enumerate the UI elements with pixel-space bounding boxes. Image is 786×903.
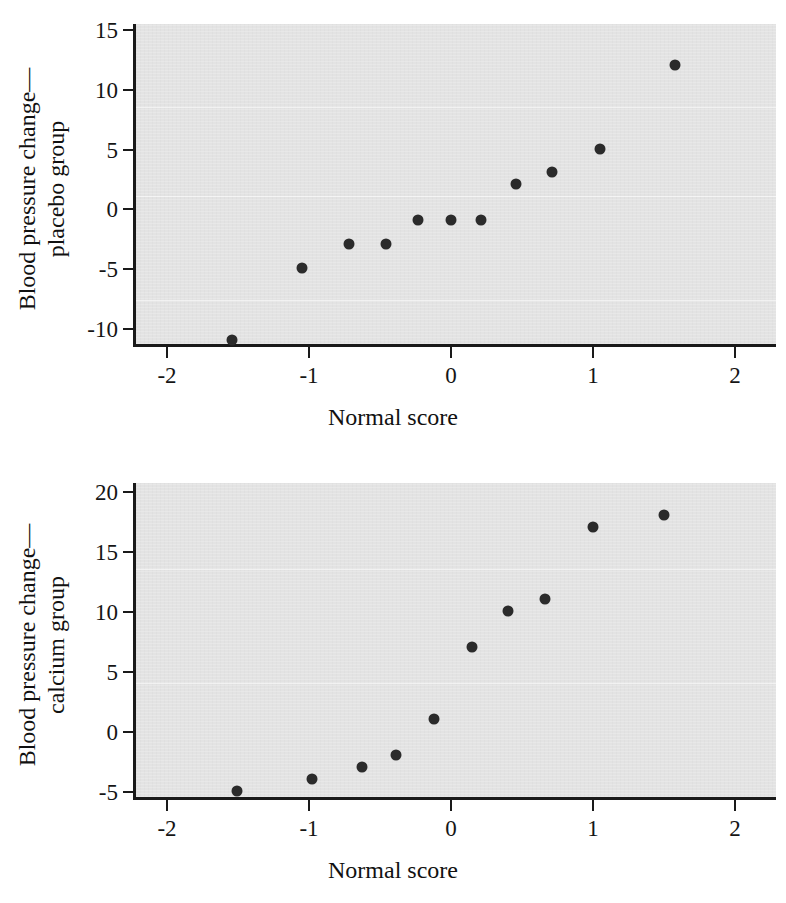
x-tick (450, 800, 452, 811)
plot-panel-calcium (136, 483, 776, 797)
y-axis-calcium (133, 483, 136, 799)
y-tick (123, 551, 134, 553)
x-tick (592, 347, 594, 358)
data-point (446, 215, 457, 226)
x-tick-label: 1 (587, 364, 599, 387)
data-point (296, 263, 307, 274)
x-tick (166, 800, 168, 811)
y-tick (123, 208, 134, 210)
y-tick (123, 491, 134, 493)
data-point (390, 750, 401, 761)
data-point (306, 774, 317, 785)
x-tick-label: 0 (445, 364, 457, 387)
x-axis-label-placebo: Normal score (0, 404, 786, 431)
y-tick (123, 29, 134, 31)
x-tick (734, 347, 736, 358)
x-tick (308, 347, 310, 358)
data-point (539, 594, 550, 605)
y-axis-label-placebo: Blood pressure change— placebo group (13, 24, 71, 354)
x-tick (450, 347, 452, 358)
y-tick (123, 328, 134, 330)
y-axis-label-line1: Blood pressure change— (13, 480, 42, 810)
y-tick (123, 149, 134, 151)
figure-placebo: 15 10 5 0 -5 -10 -2 -1 0 1 2 Normal scor… (0, 0, 786, 451)
plot-area-calcium: 20 15 10 5 0 -5 -2 -1 0 1 2 Normal score… (0, 451, 786, 903)
data-point (659, 510, 670, 521)
x-tick-label: -1 (299, 364, 318, 387)
x-tick (166, 347, 168, 358)
y-axis-label-calcium: Blood pressure change— calcium group (13, 480, 71, 810)
x-tick-label: 2 (729, 817, 741, 840)
y-tick (123, 671, 134, 673)
y-tick (123, 611, 134, 613)
data-point (475, 215, 486, 226)
x-tick-label: 2 (729, 364, 741, 387)
x-axis-label-calcium: Normal score (0, 857, 786, 884)
data-point (546, 167, 557, 178)
x-tick (308, 800, 310, 811)
data-point (670, 59, 681, 70)
y-axis-label-line2: placebo group (42, 24, 71, 354)
y-tick (123, 89, 134, 91)
data-point (467, 642, 478, 653)
x-axis-calcium (133, 797, 776, 800)
data-point (502, 606, 513, 617)
data-point (595, 143, 606, 154)
x-tick-label: 0 (445, 817, 457, 840)
data-point (231, 786, 242, 797)
data-point (511, 179, 522, 190)
y-tick (123, 731, 134, 733)
y-axis-label-line1: Blood pressure change— (13, 24, 42, 354)
x-tick-label: -2 (157, 364, 176, 387)
y-tick (123, 791, 134, 793)
y-tick (123, 268, 134, 270)
x-tick (734, 800, 736, 811)
x-tick-label: -2 (157, 817, 176, 840)
plot-panel-placebo (136, 24, 776, 344)
figure-calcium: 20 15 10 5 0 -5 -2 -1 0 1 2 Normal score… (0, 451, 786, 903)
data-point (227, 334, 238, 345)
data-point (413, 215, 424, 226)
y-axis-label-line2: calcium group (42, 480, 71, 810)
data-point (428, 714, 439, 725)
data-point (588, 522, 599, 533)
data-point (356, 762, 367, 773)
x-tick (592, 800, 594, 811)
y-axis-placebo (133, 24, 136, 346)
data-point (380, 239, 391, 250)
x-tick-label: -1 (299, 817, 318, 840)
plot-area-placebo: 15 10 5 0 -5 -10 -2 -1 0 1 2 Normal scor… (0, 0, 786, 451)
data-point (343, 239, 354, 250)
x-tick-label: 1 (587, 817, 599, 840)
